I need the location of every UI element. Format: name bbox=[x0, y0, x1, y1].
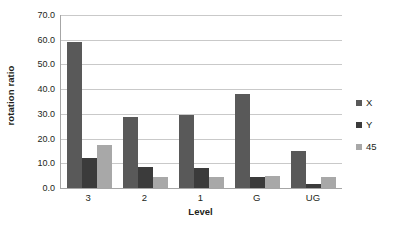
legend-swatch-icon bbox=[356, 100, 362, 106]
bar-x-3[interactable] bbox=[67, 42, 82, 188]
bar-45-g[interactable] bbox=[265, 176, 280, 188]
bar-y-2[interactable] bbox=[138, 167, 153, 188]
bar-y-1[interactable] bbox=[194, 168, 209, 188]
x-axis-tick-label: G bbox=[229, 192, 285, 206]
bar-group bbox=[61, 15, 117, 188]
y-axis-title-label: rotation ratio bbox=[6, 65, 17, 125]
bar-x-ug[interactable] bbox=[291, 151, 306, 188]
y-axis-tick-label: 30.0 bbox=[21, 109, 55, 119]
bar-45-ug[interactable] bbox=[321, 177, 336, 188]
legend-item-y[interactable]: Y bbox=[356, 114, 396, 136]
x-axis-tick-label: 2 bbox=[116, 192, 172, 206]
bar-chart: rotation ratio 0.010.020.030.040.050.060… bbox=[0, 0, 397, 232]
y-axis-tick-label: 70.0 bbox=[21, 10, 55, 20]
legend-swatch-icon bbox=[356, 144, 362, 150]
y-axis-tick-label: 10.0 bbox=[21, 158, 55, 168]
legend-item-label: 45 bbox=[366, 142, 377, 152]
bars-layer bbox=[61, 15, 342, 188]
legend-item-x[interactable]: X bbox=[356, 92, 396, 114]
bar-group bbox=[286, 15, 342, 188]
bar-group bbox=[117, 15, 173, 188]
bar-45-1[interactable] bbox=[209, 177, 224, 188]
bar-y-ug[interactable] bbox=[306, 184, 321, 188]
y-axis-title: rotation ratio bbox=[0, 0, 22, 190]
legend-item-label: Y bbox=[366, 120, 372, 130]
y-axis-tick-labels: 0.010.020.030.040.050.060.070.0 bbox=[22, 10, 58, 192]
bar-45-3[interactable] bbox=[97, 145, 112, 188]
x-axis-title: Level bbox=[60, 206, 341, 217]
legend-item-label: X bbox=[366, 98, 372, 108]
bar-y-3[interactable] bbox=[82, 158, 97, 188]
y-axis-tick-label: 60.0 bbox=[21, 35, 55, 45]
bar-y-g[interactable] bbox=[250, 177, 265, 188]
y-axis-tick-label: 40.0 bbox=[21, 84, 55, 94]
bar-x-g[interactable] bbox=[235, 94, 250, 188]
legend: XY45 bbox=[356, 92, 396, 158]
bar-x-1[interactable] bbox=[179, 115, 194, 188]
x-axis-tick-label: 3 bbox=[60, 192, 116, 206]
legend-swatch-icon bbox=[356, 122, 362, 128]
bar-45-2[interactable] bbox=[153, 177, 168, 188]
y-axis-tick-label: 20.0 bbox=[21, 134, 55, 144]
y-axis-tick-label: 50.0 bbox=[21, 59, 55, 69]
bar-group bbox=[173, 15, 229, 188]
y-axis-tick-label: 0.0 bbox=[21, 183, 55, 193]
x-axis-tick-label: 1 bbox=[172, 192, 228, 206]
legend-item-45[interactable]: 45 bbox=[356, 136, 396, 158]
bar-x-2[interactable] bbox=[123, 117, 138, 188]
x-axis-tick-label: UG bbox=[285, 192, 341, 206]
plot-area bbox=[60, 15, 342, 189]
x-axis-tick-labels: 321GUG bbox=[60, 192, 341, 206]
bar-group bbox=[230, 15, 286, 188]
